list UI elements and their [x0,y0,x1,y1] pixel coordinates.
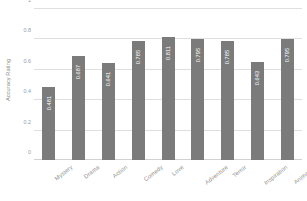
bar-value-label: 0.785 [225,49,231,64]
bar[interactable]: 0.795 [191,39,204,160]
y-tick-label: 0.8 [24,27,32,33]
bar[interactable]: 0.481 [42,87,55,160]
y-axis-tick-labels: 1 0.8 0.6 0.4 0.2 0 [16,0,34,160]
bar-value-label: 0.481 [46,96,52,111]
y-tick-label: 0 [28,149,31,155]
bar[interactable]: 0.641 [102,63,115,160]
bar[interactable]: 0.811 [162,37,175,160]
y-axis-title: Accuracy Rating [0,0,16,160]
bar-value-label: 0.785 [135,49,141,64]
x-axis-category-labels: Mystery Drama Action Comedy Love Adventu… [34,162,302,201]
bar-value-label: 0.795 [195,48,201,63]
bar-slot: 0.643 [242,8,272,160]
bar-chart: Accuracy Rating 1 0.8 0.6 0.4 0.2 0 0.48… [0,0,307,201]
x-slot: Animation [272,162,302,201]
bar[interactable]: 0.785 [132,41,145,160]
bar-slot: 0.641 [94,8,124,160]
y-tick-label: 0.6 [24,58,32,64]
bar[interactable]: 0.785 [221,41,234,160]
bar[interactable]: 0.795 [281,39,294,160]
y-tick-label: 0.4 [24,88,32,94]
x-slot: Drama [64,162,94,201]
bar-slot: 0.481 [34,8,64,160]
x-slot: Inspiration [242,162,272,201]
x-axis-label: Animation [293,164,307,185]
x-slot: Action [94,162,124,201]
bar-value-label: 0.811 [165,46,171,60]
x-slot: Comedy [123,162,153,201]
bar-value-label: 0.687 [76,64,82,79]
bar-slot: 0.785 [123,8,153,160]
bar-slot: 0.785 [213,8,243,160]
bar-slot: 0.795 [272,8,302,160]
plot-area: 0.481 0.687 0.641 0.785 0.811 [34,8,302,160]
bar[interactable]: 0.643 [251,62,264,160]
y-axis-title-text: Accuracy Rating [5,59,11,101]
y-tick-label: 0.2 [24,119,32,125]
bars-layer: 0.481 0.687 0.641 0.785 0.811 [34,8,302,160]
bar-slot: 0.795 [183,8,213,160]
bar-value-label: 0.641 [105,71,111,86]
x-slot: Love [153,162,183,201]
bar-slot: 0.687 [64,8,94,160]
x-slot: Adventure [183,162,213,201]
y-tick-label: 1 [28,0,31,3]
bar-value-label: 0.643 [254,71,260,86]
bar-slot: 0.811 [153,8,183,160]
x-slot: Terror [213,162,243,201]
x-slot: Mystery [34,162,64,201]
bar-value-label: 0.795 [284,48,290,63]
bar[interactable]: 0.687 [72,56,85,160]
